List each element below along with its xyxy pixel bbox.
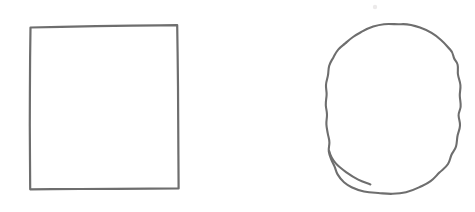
canvas-background — [0, 0, 475, 212]
faint-speck — [373, 5, 377, 9]
drawing-canvas — [0, 0, 475, 212]
shapes-figure — [0, 0, 475, 212]
